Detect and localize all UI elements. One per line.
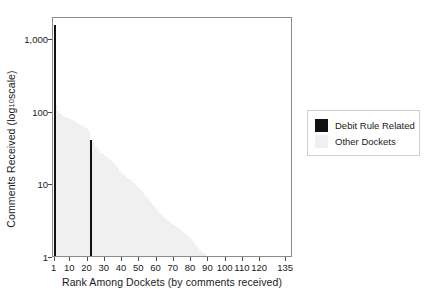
x-axis-tick-mark <box>121 257 122 261</box>
x-axis-tick-label: 135 <box>277 262 293 273</box>
x-axis-tick-label: 30 <box>99 262 110 273</box>
x-axis-tick-mark <box>173 257 174 261</box>
x-axis-tick-label: 120 <box>251 262 267 273</box>
x-axis-tick-mark <box>69 257 70 261</box>
y-axis-tick-mark <box>48 184 52 185</box>
x-axis-tick-label: 40 <box>116 262 127 273</box>
x-axis-tick-mark <box>190 257 191 261</box>
y-axis-tick-labels: 1,000100101 <box>10 0 48 298</box>
x-axis-tick-mark <box>87 257 88 261</box>
x-axis-tick-label: 60 <box>150 262 161 273</box>
x-axis-tick-mark <box>54 257 55 261</box>
x-axis-tick-label: 10 <box>64 262 75 273</box>
x-axis-tick-mark <box>207 257 208 261</box>
x-axis-tick-label: 1 <box>51 262 56 273</box>
chart-container: Comments Received (log10 scale) 1,000100… <box>0 0 426 298</box>
x-axis-tick-labels: 1102030405060708090100110120135 <box>52 262 292 275</box>
legend-item-label: Debit Rule Related <box>335 120 415 131</box>
x-axis-tick-mark <box>156 257 157 261</box>
legend-item[interactable]: Debit Rule Related <box>315 117 412 133</box>
chart-legend: Debit Rule RelatedOther Dockets <box>307 110 420 156</box>
chart-bar <box>54 25 56 256</box>
y-axis-tick-mark <box>48 39 52 40</box>
x-axis-tick-label: 100 <box>217 262 233 273</box>
plot-area <box>52 17 292 257</box>
x-axis-tick-label: 20 <box>81 262 92 273</box>
y-axis-tick-mark <box>48 257 52 258</box>
x-axis-tick-label: 90 <box>202 262 213 273</box>
chart-bar <box>204 254 206 256</box>
y-axis-tick-label: 1 <box>14 252 48 263</box>
x-axis-title: Rank Among Dockets (by comments received… <box>40 276 304 288</box>
x-axis-tick-mark <box>259 257 260 261</box>
x-axis-tick-label: 50 <box>133 262 144 273</box>
x-axis-tick-mark <box>104 257 105 261</box>
x-axis-tick-label: 80 <box>185 262 196 273</box>
y-axis-tick-mark <box>48 112 52 113</box>
chart-bar <box>90 140 92 256</box>
legend-item[interactable]: Other Dockets <box>315 133 412 149</box>
x-axis-tick-mark <box>225 257 226 261</box>
x-axis-tick-label: 70 <box>168 262 179 273</box>
x-axis-tick-mark <box>242 257 243 261</box>
legend-color-swatch <box>315 119 328 132</box>
legend-color-swatch <box>315 135 328 148</box>
y-axis-tick-label: 10 <box>14 179 48 190</box>
x-axis-tick-label: 110 <box>234 262 249 273</box>
legend-item-label: Other Dockets <box>335 136 396 147</box>
y-axis-tick-label: 100 <box>14 106 48 117</box>
x-axis-tick-mark <box>138 257 139 261</box>
y-axis-tick-label: 1,000 <box>14 33 48 44</box>
x-axis-tick-mark <box>285 257 286 261</box>
